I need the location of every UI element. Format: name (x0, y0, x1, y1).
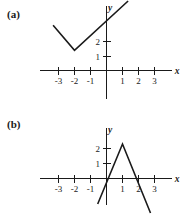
x-tick-label-1-b: 1 (120, 184, 125, 194)
y-tick-label-2-a: 2 (96, 37, 101, 47)
y-axis-label-a: y (107, 3, 113, 13)
x-tick-label--1-b: -1 (87, 184, 95, 194)
x-tick-label--2-a: -2 (71, 76, 79, 86)
y-tick-label-2-b: 2 (96, 144, 101, 154)
x-tick-label-2-a: 2 (136, 76, 141, 86)
plot-b: -3 -2 -1 1 2 3 1 2 x y (0, 110, 185, 220)
plot-a: -3 -2 -1 1 2 3 1 2 x y (0, 0, 185, 110)
y-axis-label-b: y (107, 125, 113, 135)
figure-panel-b: (b) -3 -2 -1 1 2 3 1 2 x y (0, 110, 185, 220)
figure-panel-a: (a) -3 -2 -1 1 2 3 1 2 x y (0, 0, 185, 110)
data-line-v-a (53, 1, 128, 50)
x-tick-label--3-b: -3 (55, 184, 63, 194)
x-tick-label-3-a: 3 (152, 76, 157, 86)
x-axis-label-b: x (174, 174, 180, 184)
x-axis-label-a: x (174, 66, 180, 76)
y-tick-label-1-a: 1 (96, 52, 101, 62)
x-tick-label-3-b: 3 (152, 184, 157, 194)
x-tick-label--3-a: -3 (55, 76, 63, 86)
x-tick-label-1-a: 1 (120, 76, 125, 86)
x-tick-label--1-a: -1 (87, 76, 95, 86)
y-tick-label-1-b: 1 (96, 159, 101, 169)
x-tick-label--2-b: -2 (71, 184, 79, 194)
